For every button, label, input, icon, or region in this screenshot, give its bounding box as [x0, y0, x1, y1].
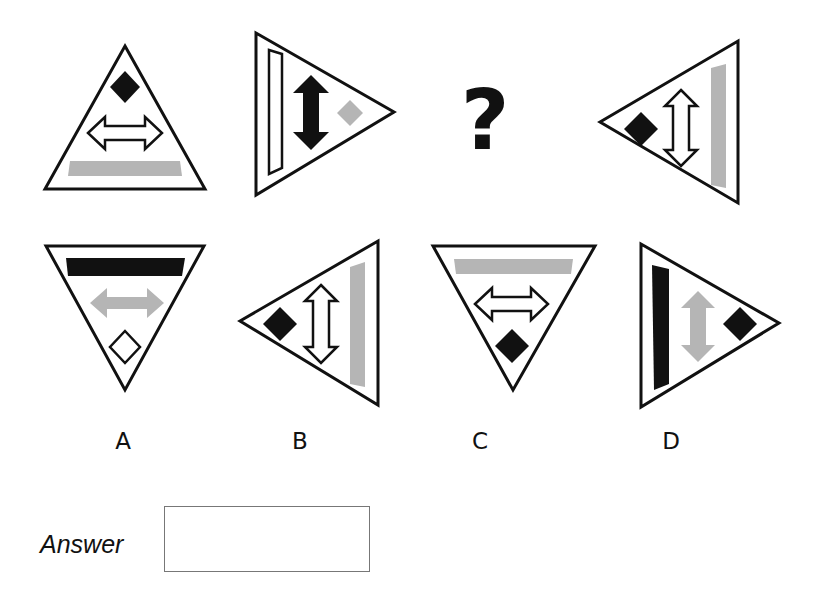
option-b-label[interactable]: B [280, 428, 320, 454]
option-d-figure[interactable] [635, 238, 785, 413]
black-bar-icon [66, 258, 185, 276]
option-b-figure[interactable] [235, 235, 385, 410]
black-vertical-bar-icon [652, 265, 669, 390]
white-vertical-bar-icon [269, 50, 282, 174]
option-a-figure[interactable] [40, 240, 210, 400]
grey-bar-icon [68, 161, 182, 176]
option-c-label[interactable]: C [460, 428, 500, 454]
grey-bar-icon [454, 259, 573, 274]
sequence-figure-1 [40, 40, 210, 195]
sequence-figure-2 [250, 28, 400, 208]
option-c-figure[interactable] [428, 240, 600, 400]
option-a-label[interactable]: A [103, 428, 143, 454]
answer-label: Answer [40, 530, 123, 559]
sequence-figure-4 [595, 38, 745, 208]
grey-vertical-bar-icon [350, 262, 365, 387]
grey-vertical-bar-icon [711, 64, 726, 188]
answer-input-box[interactable] [164, 506, 370, 572]
question-mark: ? [440, 70, 530, 170]
option-d-label[interactable]: D [651, 428, 691, 454]
